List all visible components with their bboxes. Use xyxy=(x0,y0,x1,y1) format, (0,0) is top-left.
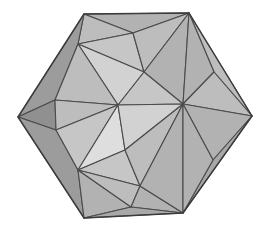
polyhedron-figure xyxy=(0,0,261,228)
polyhedron-faces xyxy=(18,13,252,218)
render-canvas xyxy=(0,0,261,228)
